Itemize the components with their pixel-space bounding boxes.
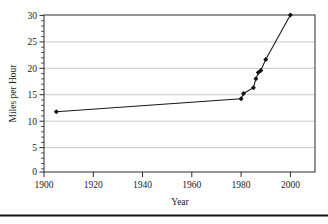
y-tick-label: 20 [28, 64, 38, 74]
x-axis-major-ticks [44, 172, 290, 177]
x-tick-label: 1920 [84, 180, 103, 190]
y-tick-label: 25 [28, 37, 38, 47]
x-tick-label: 2000 [281, 180, 300, 190]
y-tick-label: 5 [32, 143, 37, 153]
y-axis-title: Miles per Hour [8, 64, 18, 123]
line-chart: 30 25 20 15 10 5 0 1900 1920 1940 1960 1… [0, 0, 328, 224]
chart-figure: 30 25 20 15 10 5 0 1900 1920 1940 1960 1… [0, 0, 328, 224]
plot-area-background [44, 15, 315, 172]
y-axis-major-ticks [40, 15, 45, 172]
y-tick-label: 0 [32, 167, 37, 177]
y-axis-tick-labels: 30 25 20 15 10 5 0 [28, 11, 38, 178]
x-axis-title: Year [171, 197, 189, 207]
x-axis-tick-labels: 1900 1920 1940 1960 1980 2000 [35, 180, 301, 190]
y-tick-label: 30 [28, 11, 38, 21]
x-tick-label: 1940 [133, 180, 152, 190]
x-tick-label: 1960 [182, 180, 201, 190]
x-tick-label: 1980 [232, 180, 251, 190]
x-tick-label: 1900 [35, 180, 54, 190]
y-tick-label: 15 [28, 90, 38, 100]
y-tick-label: 10 [28, 117, 38, 127]
